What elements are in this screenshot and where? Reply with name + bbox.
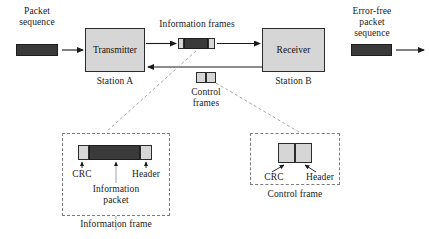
information-packet-label: Information packet bbox=[76, 184, 156, 206]
receiver-label: Receiver bbox=[277, 45, 311, 55]
detail-crc-segment bbox=[140, 145, 152, 160]
error-free-packet-bar bbox=[351, 44, 392, 56]
control-frame-top bbox=[196, 72, 216, 83]
information-frame-detail-bar bbox=[78, 145, 152, 160]
control-detail-header-label: Header bbox=[298, 172, 342, 183]
control-frames-label: Control frames bbox=[176, 87, 236, 109]
control-frame-detail-cells bbox=[278, 143, 312, 163]
diagram-canvas: Packet sequence Transmitter Station A In… bbox=[0, 0, 429, 239]
control-frame-caption: Control frame bbox=[245, 189, 345, 200]
detail-payload-segment bbox=[89, 145, 140, 160]
packet-sequence-label: Packet sequence bbox=[6, 6, 68, 28]
station-b-label: Station B bbox=[262, 76, 325, 87]
error-free-packet-sequence-label: Error-free packet sequence bbox=[340, 6, 404, 39]
detail-header-segment bbox=[78, 145, 89, 160]
transmitter-label: Transmitter bbox=[93, 45, 137, 55]
information-frame-caption: Information frame bbox=[56, 219, 176, 230]
detail-header-label: Header bbox=[124, 169, 168, 180]
control-frame-cell-right bbox=[206, 72, 216, 83]
control-detail-crc-label: CRC bbox=[256, 172, 292, 183]
packet-sequence-bar bbox=[16, 44, 58, 56]
detail-crc-label: CRC bbox=[64, 169, 100, 180]
information-frame-top bbox=[178, 38, 215, 49]
control-detail-cell-left bbox=[278, 143, 295, 163]
receiver-box[interactable]: Receiver bbox=[262, 28, 325, 72]
station-a-label: Station A bbox=[85, 76, 145, 87]
information-frames-label: Information frames bbox=[152, 19, 242, 30]
frame-payload-segment bbox=[184, 38, 208, 49]
frame-crc-segment bbox=[208, 38, 215, 49]
transmitter-box[interactable]: Transmitter bbox=[85, 28, 145, 72]
control-detail-cell-right bbox=[295, 143, 312, 163]
control-frame-cell-left bbox=[196, 72, 206, 83]
